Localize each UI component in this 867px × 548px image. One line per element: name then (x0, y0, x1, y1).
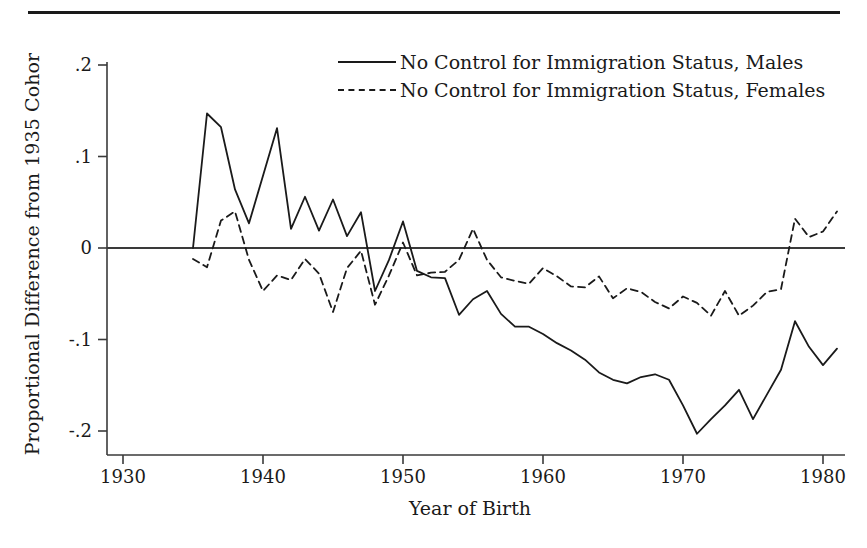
figure-container: Proportional Difference from 1935 Cohor … (0, 0, 867, 548)
legend-line-solid-icon (338, 56, 396, 68)
legend-label-females: No Control for Immigration Status, Femal… (400, 76, 825, 104)
legend-label-males: No Control for Immigration Status, Males (400, 48, 803, 76)
legend: No Control for Immigration Status, Males… (338, 48, 825, 104)
legend-item-males: No Control for Immigration Status, Males (338, 48, 825, 76)
legend-line-dashed-icon (338, 84, 396, 96)
series-line-males (193, 114, 837, 434)
legend-item-females: No Control for Immigration Status, Femal… (338, 76, 825, 104)
series-line-females (193, 211, 837, 315)
